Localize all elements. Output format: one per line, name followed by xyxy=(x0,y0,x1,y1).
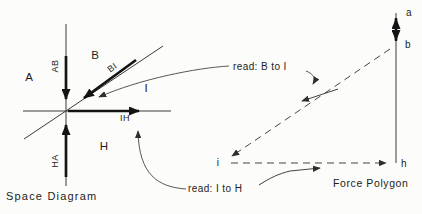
vertex-label-h: h xyxy=(401,158,407,169)
region-label-b: B xyxy=(91,49,99,61)
force-polygon-caption: Force Polygon xyxy=(333,177,409,189)
callout-leader-b-to-i-left xyxy=(99,66,229,97)
force-polygon: a b i h Force Polygon xyxy=(217,7,412,189)
read-direction-arrow-bi xyxy=(302,89,338,101)
callout-leader-i-to-h-left xyxy=(138,131,186,189)
member-label-ab: AB xyxy=(50,59,60,72)
vertex-label-a: a xyxy=(406,7,412,18)
diagram-canvas: A B I H AB BI IH HA Space Diagram a xyxy=(0,0,422,214)
region-label-h: H xyxy=(100,140,108,152)
callout-leader-i-to-h-right xyxy=(259,168,320,185)
vertex-label-b: b xyxy=(405,39,411,50)
callout-leader-b-to-i-right xyxy=(306,71,314,84)
member-label-ih: IH xyxy=(120,113,130,123)
callouts: read: B to I read: I to H xyxy=(99,61,320,194)
statics-figure: A B I H AB BI IH HA Space Diagram a xyxy=(0,0,422,214)
callout-label-read-b-to-i: read: B to I xyxy=(233,61,287,72)
member-label-ha: HA xyxy=(50,154,60,168)
region-label-i: I xyxy=(144,82,147,94)
vertex-label-i: i xyxy=(217,157,219,168)
region-label-a: A xyxy=(25,71,33,83)
space-diagram-caption: Space Diagram xyxy=(6,190,97,202)
space-diagram: A B I H AB BI IH HA Space Diagram xyxy=(6,24,171,202)
callout-label-read-i-to-h: read: I to H xyxy=(188,183,242,194)
